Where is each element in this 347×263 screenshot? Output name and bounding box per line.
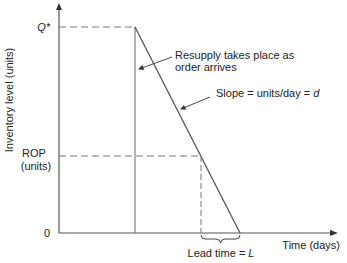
resupply-annotation-line1: Resupply takes place as (175, 49, 295, 61)
zero-label: 0 (44, 227, 50, 239)
rop-label: ROP (22, 147, 46, 159)
rop-diagram: Inventory level (units) Q* ROP (units) 0… (0, 0, 347, 263)
rop-units-label: (units) (21, 160, 52, 172)
slope-arrow (181, 97, 210, 109)
x-axis-arrow-icon (330, 230, 338, 236)
x-axis-label: Time (days) (282, 239, 340, 251)
y-axis-arrow-icon (56, 3, 62, 10)
q-star-label: Q* (37, 21, 51, 33)
y-axis-label: Inventory level (units) (3, 48, 15, 153)
slope-annotation: Slope = units/day = d (216, 87, 320, 99)
lead-time-brace (201, 235, 240, 243)
resupply-annotation-line2: order arrives (175, 61, 237, 73)
lead-time-label: Lead time = L (188, 247, 255, 259)
